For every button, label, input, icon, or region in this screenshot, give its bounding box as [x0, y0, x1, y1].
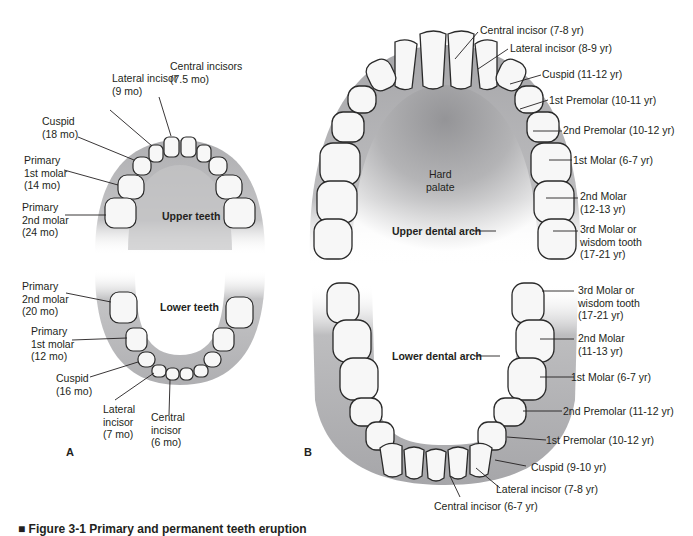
- upper-dental-arch-title: Upper dental arch: [392, 225, 481, 238]
- tooth-name: Cuspid: [56, 372, 89, 384]
- eruption-age: (18 mo): [42, 128, 78, 140]
- label-b-lower-lateral-incisor: Lateral incisor (7-8 yr): [496, 483, 598, 496]
- tooth-name: Central incisors: [170, 60, 242, 72]
- panel-letter-a: A: [66, 446, 74, 458]
- label-lower-primary-2nd-molar: Primary 2nd molar(20 mo): [22, 280, 72, 318]
- figure-caption: ■ Figure 3-1 Primary and permanent teeth…: [18, 522, 307, 536]
- lower-teeth-title: Lower teeth: [160, 301, 219, 314]
- eruption-age: (7 mo): [103, 428, 133, 440]
- label-upper-cuspid: Cuspid(18 mo): [42, 115, 78, 140]
- eruption-age: (16 mo): [56, 385, 92, 397]
- tooth-name: Central incisor: [151, 411, 185, 436]
- lower-permanent-arch: [312, 283, 578, 485]
- label-upper-lateral-incisor: Lateral incisor(9 mo): [112, 72, 177, 97]
- hard-palate-label: Hard palate: [426, 168, 455, 193]
- label-b-lower-cuspid: Cuspid (9-10 yr): [531, 461, 606, 474]
- eruption-age: (12 mo): [31, 350, 67, 362]
- label-b-lower-2nd-premolar: 2nd Premolar (11-12 yr): [563, 405, 674, 418]
- tooth-name: Primary 1st molar: [31, 325, 74, 350]
- tooth-name: Cuspid: [42, 115, 75, 127]
- label-lower-cuspid: Cuspid(16 mo): [56, 372, 92, 397]
- eruption-age: (24 mo): [22, 226, 58, 238]
- label-b-upper-1st-premolar: 1st Premolar (10-11 yr): [549, 94, 656, 107]
- label-b-lower-central-incisor: Central incisor (6-7 yr): [434, 500, 538, 513]
- label-lower-central-incisor: Central incisor(6 mo): [151, 411, 193, 449]
- label-lower-lateral-incisor: Lateral incisor(7 mo): [103, 403, 145, 441]
- label-b-upper-1st-molar: 1st Molar (6-7 yr): [573, 154, 653, 167]
- upper-teeth-title: Upper teeth: [162, 210, 220, 223]
- eruption-age: (6 mo): [151, 436, 181, 448]
- lower-dental-arch-title: Lower dental arch: [392, 350, 482, 363]
- label-b-upper-lateral-incisor: Lateral incisor (8-9 yr): [510, 42, 612, 55]
- label-b-upper-2nd-premolar: 2nd Premolar (10-12 yr): [563, 124, 674, 137]
- tooth-name: Primary 1st molar: [24, 154, 67, 179]
- label-lower-primary-1st-molar: Primary 1st molar(12 mo): [31, 325, 77, 363]
- label-b-upper-3rd-molar: 3rd Molar or wisdom tooth (17-21 yr): [580, 223, 642, 261]
- label-b-lower-3rd-molar: 3rd Molar or wisdom tooth (17-21 yr): [578, 284, 640, 322]
- label-b-lower-1st-premolar: 1st Premolar (10-12 yr): [546, 434, 654, 447]
- tooth-name: Primary 2nd molar: [22, 280, 69, 305]
- label-upper-central-incisors: Central incisors(7.5 mo): [170, 60, 242, 85]
- label-upper-primary-1st-molar: Primary 1st molar(14 mo): [24, 154, 74, 192]
- tooth-name: Lateral incisor: [112, 72, 177, 84]
- label-b-upper-2nd-molar: 2nd Molar (12-13 yr): [580, 190, 627, 215]
- eruption-age: (9 mo): [112, 85, 142, 97]
- label-b-upper-cuspid: Cuspid (11-12 yr): [542, 68, 622, 81]
- label-b-lower-1st-molar: 1st Molar (6-7 yr): [571, 371, 651, 384]
- label-b-upper-central-incisor: Central incisor (7-8 yr): [480, 24, 584, 37]
- label-b-lower-2nd-molar: 2nd Molar (11-13 yr): [578, 332, 625, 357]
- tooth-name: Lateral incisor: [103, 403, 135, 428]
- eruption-age: (14 mo): [24, 179, 60, 191]
- label-upper-primary-2nd-molar: Primary 2nd molar(24 mo): [22, 201, 72, 239]
- panel-letter-b: B: [304, 446, 312, 458]
- eruption-age: (20 mo): [22, 305, 58, 317]
- tooth-name: Primary 2nd molar: [22, 201, 69, 226]
